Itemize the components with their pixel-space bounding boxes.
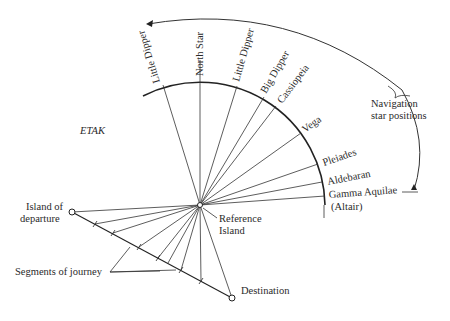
star-label-pleiades: Pleiades — [321, 146, 358, 168]
star-label-vega: Vega — [300, 113, 324, 134]
departure-island-marker — [69, 209, 75, 215]
navigation-range-label-2: star positions — [371, 110, 427, 121]
star-label-little-dipper-right: Little Dipper — [230, 27, 256, 83]
reference-island-label-1: Reference — [219, 213, 262, 224]
segment-lines — [72, 205, 232, 298]
segments-label: Segments of journey — [15, 266, 103, 277]
reference-island-label-2: Island — [219, 225, 245, 236]
arrowhead-down-icon — [411, 184, 417, 190]
etak-diagram: Little Dipper North Star Little Dipper B… — [0, 0, 450, 321]
star-label-gamma-aquilae: Gamma Aquilae — [328, 184, 397, 200]
reference-island-marker — [198, 203, 203, 208]
destination-label: Destination — [241, 285, 290, 296]
journey-path — [72, 212, 232, 298]
star-label-altair: (Altair) — [331, 201, 363, 213]
star-label-little-dipper-left: Little Dipper — [135, 29, 162, 85]
destination-marker — [229, 295, 235, 301]
star-label-north-star: North Star — [194, 31, 205, 76]
star-labels: Little Dipper North Star Little Dipper B… — [135, 27, 398, 213]
star-label-aldebaran: Aldebaran — [326, 168, 372, 187]
reference-leader — [203, 208, 217, 218]
navigation-range-label-1: Navigation — [371, 98, 418, 109]
arrowhead-icon — [146, 20, 153, 27]
departure-label-1: Island of — [26, 201, 64, 212]
etak-title: ETAK — [79, 125, 106, 136]
departure-label-2: departure — [20, 213, 60, 224]
